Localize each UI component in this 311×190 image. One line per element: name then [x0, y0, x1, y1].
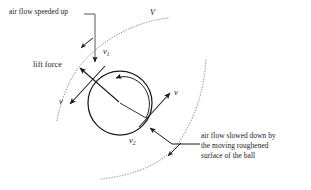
label-velocity-left: v — [59, 97, 63, 106]
label-air-flow-speeded-up: air flow speeded up — [9, 8, 68, 16]
label-velocity-bottom: v2 — [129, 136, 136, 145]
lower-streamline-flow-arrow — [168, 143, 181, 156]
spin-radius-line — [120, 103, 146, 118]
air-speeded-up-leader — [84, 14, 95, 62]
label-lift-force: lift force — [33, 60, 62, 69]
upper-streamline-flow-arrow — [81, 38, 93, 48]
lift-force-arrow — [80, 68, 119, 102]
label-free-stream-velocity: V — [150, 8, 155, 17]
label-air-flow-slowed-down: air flow slowed down by the moving rough… — [201, 131, 276, 160]
label-velocity-right: v — [174, 88, 178, 97]
label-velocity-bottom-subscript: 2 — [133, 140, 136, 146]
magnus-effect-diagram: air flow speeded up lift force air flow … — [0, 0, 311, 190]
diagram-canvas — [0, 0, 311, 190]
velocity-right-arrow — [139, 93, 170, 127]
air-slowed-down-leader — [150, 128, 200, 144]
label-velocity-top: v1 — [103, 47, 110, 56]
label-velocity-top-subscript: 1 — [107, 51, 110, 57]
